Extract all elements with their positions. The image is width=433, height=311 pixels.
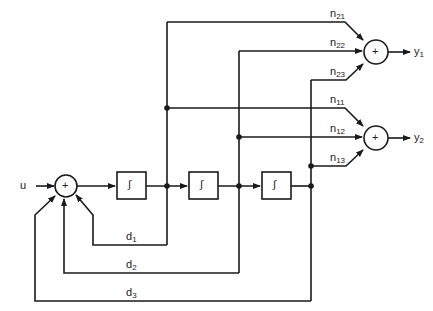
gain-n13: n13: [330, 152, 345, 165]
gain-n21: n21: [330, 8, 345, 21]
gain-n22: n22: [330, 37, 345, 50]
gain-n11: n11: [330, 94, 344, 107]
diagram-canvas: [0, 0, 433, 311]
block-diagram: + + + ∫ ∫ ∫ u y1 y2 n21 n22 n23 n11 n12 …: [0, 0, 433, 311]
output-label-y1: y1: [414, 46, 424, 59]
gain-d3: d3: [126, 287, 137, 300]
gain-d2: d2: [126, 259, 137, 272]
output-label-y2: y2: [414, 132, 424, 145]
integral-symbol: ∫: [200, 179, 203, 190]
gain-d1: d1: [126, 231, 137, 244]
sum-symbol: +: [372, 132, 378, 143]
gain-n23: n23: [330, 66, 345, 79]
gain-n12: n12: [330, 123, 345, 136]
integral-symbol: ∫: [128, 179, 131, 190]
sum-symbol: +: [62, 180, 68, 191]
integral-symbol: ∫: [273, 179, 276, 190]
input-label: u: [20, 180, 26, 191]
feedback-d2: [64, 199, 239, 273]
sum-symbol: +: [372, 46, 378, 57]
feedback-d3: [35, 196, 311, 301]
feedback-d1: [76, 195, 167, 245]
integrator-2: [189, 172, 218, 199]
integrator-1: [117, 172, 146, 199]
integrator-3: [262, 172, 291, 199]
